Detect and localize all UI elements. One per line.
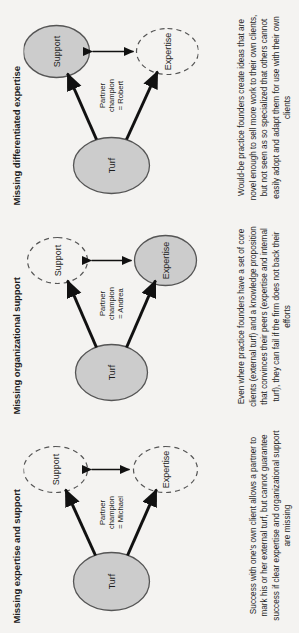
panel-caption: Success with one's own client allows a p… <box>247 429 293 621</box>
figure-canvas: Missing expertise and support <box>0 0 299 633</box>
node-support <box>23 446 87 492</box>
panel-missing-organizational-support: Missing organizational support T <box>6 213 297 420</box>
arrow-turf-expertise <box>126 71 157 139</box>
node-support <box>23 25 89 77</box>
node-expertise <box>133 446 197 492</box>
diagram-triangle: Turf Support Expertise Partner champion … <box>23 213 198 420</box>
edge-label-partner-champion: Partner champion = Robert <box>97 79 125 112</box>
node-expertise <box>134 235 196 285</box>
panel-caption: Even where practice founders have a set … <box>235 220 293 412</box>
arrow-turf-support <box>67 280 96 347</box>
panel-title: Missing differentiated expertise <box>10 4 21 205</box>
arrow-turf-expertise <box>127 489 156 555</box>
panel-missing-differentiated-expertise: Missing differentiated expertise <box>6 4 297 211</box>
node-turf <box>73 552 149 610</box>
arrow-turf-support <box>67 73 96 139</box>
diagram-triangle: Turf Support Expertise Partner champion … <box>23 422 198 629</box>
node-expertise <box>136 28 198 74</box>
node-turf <box>75 344 147 400</box>
panel-title: Missing expertise and support <box>10 422 21 623</box>
node-support <box>27 237 87 283</box>
diagram-triangle: Turf Support Expertise Partner champion … <box>23 4 198 211</box>
arrow-turf-expertise <box>126 280 155 347</box>
node-turf <box>73 137 149 193</box>
edge-label-partner-champion: Partner champion = Andrea <box>97 287 125 320</box>
panel-title: Missing organizational support <box>10 213 21 414</box>
panel-missing-expertise-and-support: Missing expertise and support <box>6 422 297 629</box>
panel-caption: Would-be practice founders create ideas … <box>235 11 293 203</box>
arrow-turf-support <box>65 489 95 555</box>
edge-label-partner-champion: Partner champion = Michael <box>97 496 125 529</box>
